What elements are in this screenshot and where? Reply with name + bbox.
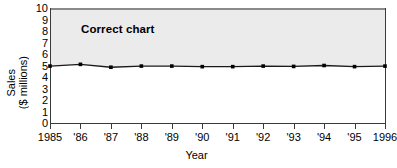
y-axis-tick-label: 10 [26,2,48,14]
chart-title: Correct chart [81,23,155,35]
x-axis-tick-label: '89 [165,131,179,144]
data-point-marker [383,64,387,68]
data-point-marker [261,64,265,68]
x-axis-tick [172,124,173,129]
data-point-marker [292,65,296,69]
x-axis-tick [294,124,295,129]
x-axis-tick [385,124,386,129]
x-axis-tick-label: '88 [134,131,148,144]
x-axis-tick [324,124,325,129]
y-axis-tick-label: 5 [26,60,48,72]
data-point-marker [48,64,52,68]
y-axis-tick-label: 3 [26,83,48,95]
x-axis-ticks [0,124,393,130]
x-axis-tick [263,124,264,129]
x-axis-tick [202,124,203,129]
data-point-marker [353,65,357,69]
y-axis-tick-labels: 109876543210 [26,2,48,126]
x-axis-tick-label: 1985 [38,131,62,144]
x-axis-title: Year [0,149,393,161]
x-axis-tick [233,124,234,129]
x-axis-tick [111,124,112,129]
y-axis-tick-label: 2 [26,94,48,106]
x-axis-tick-label: 1996 [373,131,397,144]
data-point-marker [79,63,83,67]
y-axis-tick-label: 4 [26,71,48,83]
data-point-marker [231,65,235,69]
data-point-marker [200,65,204,69]
y-axis-tick-label: 6 [26,48,48,60]
x-axis-tick [141,124,142,129]
x-axis-tick-label: '90 [195,131,209,144]
x-axis-tick-label: '94 [317,131,331,144]
x-axis-tick [80,124,81,129]
data-point-marker [322,64,326,68]
x-axis-tick-label: '91 [226,131,240,144]
x-axis-tick-label: '95 [347,131,361,144]
y-axis-tick-label: 1 [26,106,48,118]
x-axis-tick-label: '92 [256,131,270,144]
data-point-marker [109,65,113,69]
x-axis-tick-label: '87 [104,131,118,144]
x-axis-tick-labels: 1985'86'87'88'89'90'91'92'93'94'951996 [0,131,393,145]
data-point-marker [170,64,174,68]
x-axis-tick-label: '86 [73,131,87,144]
y-axis-tick-label: 8 [26,25,48,37]
data-point-marker [140,64,144,68]
y-axis-tick-label: 7 [26,37,48,49]
x-axis-tick [50,124,51,129]
x-axis-tick [355,124,356,129]
x-axis-tick-label: '93 [286,131,300,144]
x-axis-title-label: Year [185,149,207,161]
y-axis-tick-label: 9 [26,14,48,26]
y-axis-title-line-1: Sales [5,69,17,97]
